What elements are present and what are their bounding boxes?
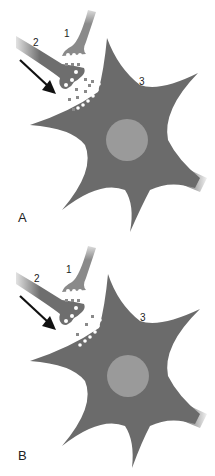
terminal-1-vesicles [65,299,80,302]
label-3: 3 [140,312,146,323]
label-3: 3 [139,76,145,87]
terminal-1-vesicles [65,63,80,66]
panel-b-diagram: 1 2 3 B [0,238,215,476]
panel-label-a: A [18,210,27,225]
terminal-1-notches [66,53,82,57]
label-1: 1 [66,264,72,275]
cell-process-right [168,396,207,428]
panel-b: 1 2 3 B [0,238,215,476]
panel-a-diagram: 1 2 3 A [0,0,215,238]
nucleus [106,119,148,161]
label-1: 1 [64,28,70,39]
label-2: 2 [34,273,40,284]
released-vesicles [76,315,94,336]
label-2: 2 [33,37,39,48]
panel-a: 1 2 3 A [0,0,215,238]
nucleus [107,355,149,397]
cell-process-right [168,160,207,192]
terminal-1-notches [66,289,82,293]
panel-label-b: B [18,448,27,463]
